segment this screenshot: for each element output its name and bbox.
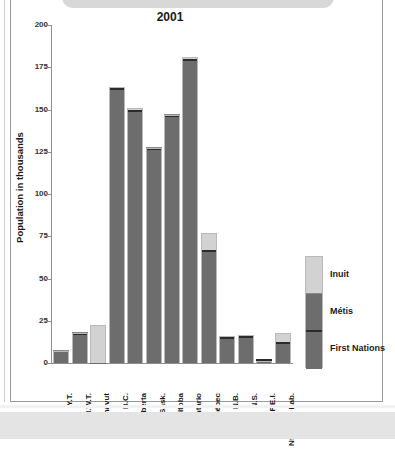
bar-segment-inuit: [275, 333, 291, 342]
bar-p-e-i: [256, 361, 272, 363]
y-tick-label: 25: [8, 316, 48, 325]
x-axis-line: [51, 363, 293, 364]
bar-segment-m-tis: [127, 110, 143, 222]
legend-swatch-m-tis: [306, 294, 322, 331]
bar-segment-inuit: [53, 350, 69, 351]
bar-ontario: [182, 57, 198, 363]
y-tick-label: 75: [8, 231, 48, 240]
bar-sask: [146, 148, 162, 363]
bar-segment-m-tis: [146, 148, 162, 222]
bar-n-b: [219, 336, 235, 363]
legend-label-first-nations: First Nations: [330, 343, 385, 353]
legend-label-m-tis: Métis: [330, 306, 353, 316]
bar-segment-m-tis: [256, 359, 272, 361]
page-bottom-edge: [0, 405, 395, 408]
bar-n-w-t: [72, 333, 88, 363]
bar-segment-inuit: [164, 114, 180, 115]
y-tick-label: 0: [8, 358, 48, 367]
bar-segment-first-nations: [219, 344, 235, 363]
legend-swatch-inuit: [306, 257, 322, 294]
bar-segment-m-tis: [201, 250, 217, 277]
bar-segment-first-nations: [201, 277, 217, 363]
bar-segment-m-tis: [238, 336, 254, 342]
y-tick-label: 100: [8, 189, 48, 198]
legend-label-inuit: Inuit: [330, 269, 349, 279]
bar-segment-first-nations: [256, 361, 272, 363]
y-tick-label: 50: [8, 274, 48, 283]
bar-segment-m-tis: [275, 342, 291, 351]
bar-segment-inuit: [238, 335, 254, 336]
bar-segment-m-tis: [219, 337, 235, 344]
bar-segment-inuit: [219, 336, 235, 337]
bar-segment-first-nations: [109, 164, 125, 363]
bar-segment-first-nations: [127, 221, 143, 363]
bar-segment-first-nations: [182, 141, 198, 363]
bar-nfld-and-lab: [275, 333, 291, 363]
bar-segment-inuit: [127, 108, 143, 110]
bar-segment-inuit: [146, 147, 162, 148]
bar-segment-m-tis: [109, 88, 125, 163]
chart-legend: InuitMétisFirst Nations: [305, 256, 391, 368]
bar-segment-first-nations: [164, 211, 180, 363]
bar-segment-first-nations: [275, 351, 291, 363]
bar-segment-first-nations: [72, 339, 88, 363]
y-tick-label: 200: [8, 20, 48, 29]
bar-segment-m-tis: [182, 59, 198, 141]
y-tick-label: 175: [8, 62, 48, 71]
y-axis-tick-labels: 0255075100125150175200: [0, 25, 48, 363]
section-banner: PROVINCES AND TERRITORIES: [62, 0, 334, 8]
legend-swatch-first-nations: [306, 332, 322, 369]
chart-title: 2001: [110, 10, 230, 24]
bar-segment-inuit: [201, 233, 217, 250]
y-tick-label: 150: [8, 105, 48, 114]
bar-segment-m-tis: [72, 333, 88, 339]
page-bottom-band: [0, 412, 395, 439]
bar-segment-first-nations: [53, 352, 69, 363]
bar-nunavut: [90, 325, 106, 363]
bar-y-t: [53, 351, 69, 363]
bar-segment-first-nations: [146, 222, 162, 363]
legend-swatch-bar: [305, 256, 323, 368]
bar-n-s: [238, 335, 254, 363]
bar-qu-bec: [201, 233, 217, 363]
bar-b-c: [109, 87, 125, 363]
bar-segment-inuit: [90, 325, 106, 363]
bar-segment-inuit: [72, 332, 88, 333]
y-tick-label: 125: [8, 147, 48, 156]
bar-segment-inuit: [182, 57, 198, 59]
plot-area: Y.T.N.W.T.NunavutB.C.AlbertaSask.Manitob…: [52, 25, 292, 363]
bar-segment-inuit: [109, 87, 125, 88]
bar-alberta: [127, 108, 143, 363]
bar-segment-first-nations: [238, 342, 254, 363]
bar-manitoba: [164, 115, 180, 363]
bar-segment-m-tis: [164, 115, 180, 210]
